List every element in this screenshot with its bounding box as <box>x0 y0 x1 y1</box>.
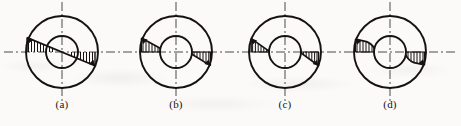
figure-container: (a) (b) (c) (d) <box>0 0 461 126</box>
panel-label-b: (b) <box>146 98 206 110</box>
panel-label-d: (d) <box>360 98 420 110</box>
panel-label-c: (c) <box>255 98 315 110</box>
panel-a <box>26 2 98 102</box>
panel-label-a: (a) <box>32 98 92 110</box>
